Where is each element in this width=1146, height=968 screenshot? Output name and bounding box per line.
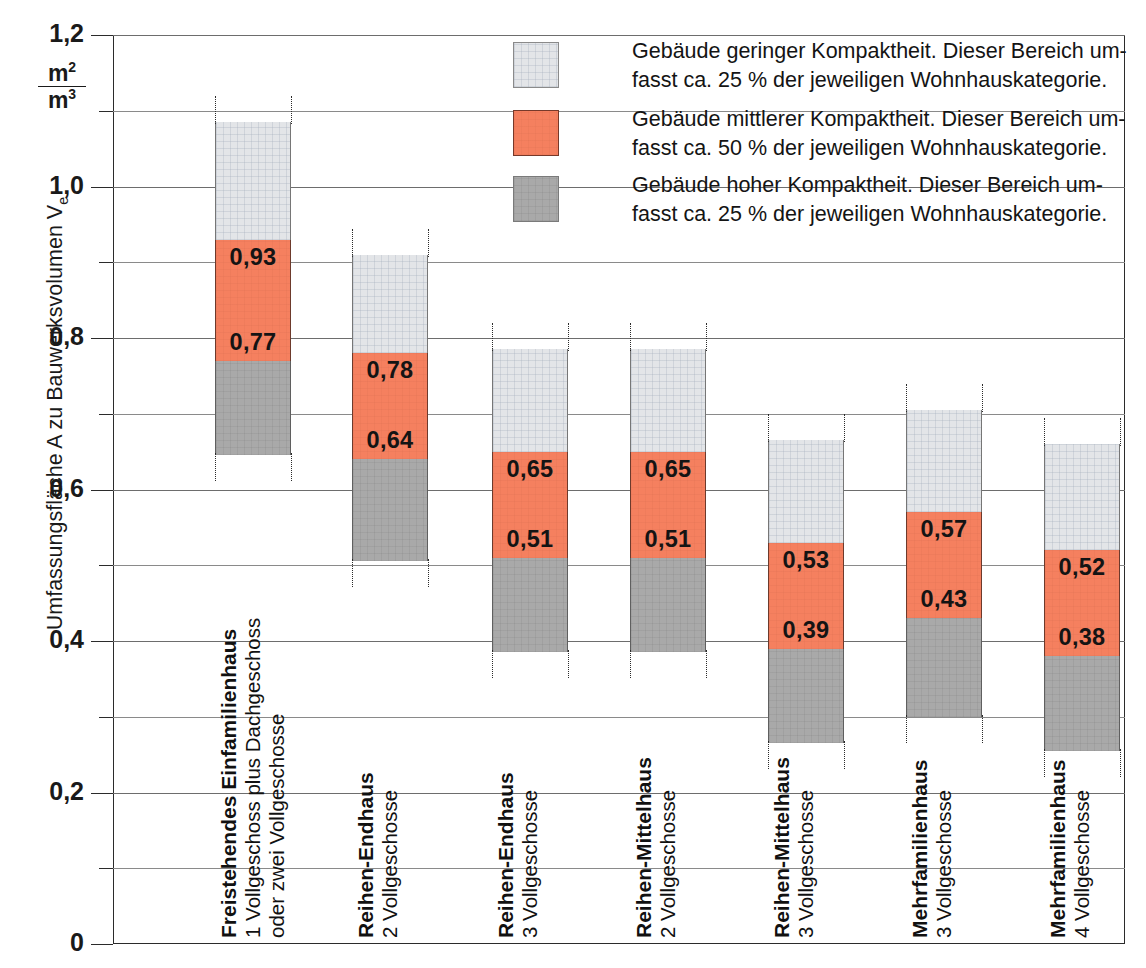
bar-guide-bottom-right	[291, 453, 292, 481]
category-label-1: Freistehendes Einfamilienhaus1 Vollgesch…	[217, 618, 289, 938]
bar-guide-top-left	[768, 414, 769, 442]
value-label-lower: 0,77	[215, 329, 291, 356]
value-label-lower: 0,38	[1044, 624, 1120, 651]
legend-text: Gebäude hoher Kompaktheit. Dieser Bereic…	[632, 171, 1146, 228]
category-label-title: Reihen-Mittelhaus	[632, 757, 656, 938]
category-label-sub2: oder zwei Vollgeschosse	[265, 618, 289, 938]
legend-swatch-mid-icon	[513, 110, 559, 156]
value-label-upper: 0,65	[492, 456, 568, 483]
legend-text-line1: Gebäude mittlerer Kompaktheit. Dieser Be…	[632, 105, 1146, 134]
legend-text: Gebäude geringer Kompaktheit. Dieser Ber…	[632, 37, 1146, 94]
segment-high-compactness	[906, 618, 982, 716]
y-axis-title: Umfassungsfläche A zu Bauwerksvolumen Ve	[43, 179, 70, 649]
category-label-4: Reihen-Mittelhaus2 Vollgeschosse	[632, 757, 680, 938]
segment-low-compactness	[630, 349, 706, 451]
bar-guide-top-right	[291, 96, 292, 124]
category-label-3: Reihen-Endhaus3 Vollgeschosse	[494, 772, 542, 938]
y-axis-tick-label: 0,2	[12, 777, 84, 806]
category-label-title: Mehrfamilienhaus	[908, 759, 932, 938]
bar-3: 0,650,51	[492, 349, 568, 652]
bar-guide-bottom-left	[906, 715, 907, 743]
bar-guide-top-left	[906, 384, 907, 412]
unit-numerator: m2	[38, 60, 86, 87]
value-label-lower: 0,39	[768, 617, 844, 644]
gridline-major	[113, 35, 1125, 36]
bar-guide-top-right	[706, 323, 707, 351]
segment-low-compactness	[906, 410, 982, 512]
bar-guide-bottom-right	[706, 650, 707, 678]
legend-swatch-low-icon	[513, 42, 559, 88]
bar-guide-bottom-left	[768, 741, 769, 769]
bar-guide-top-right	[844, 414, 845, 442]
bar-guide-top-left	[1044, 418, 1045, 446]
bar-guide-bottom-right	[428, 559, 429, 587]
segment-low-compactness	[1044, 444, 1120, 550]
bar-guide-top-left	[630, 323, 631, 351]
bar-6: 0,570,43	[906, 410, 982, 717]
segment-high-compactness	[352, 459, 428, 561]
bar-guide-top-right	[982, 384, 983, 412]
y-tick-minor	[99, 111, 113, 112]
y-tick-minor	[99, 868, 113, 869]
y-tick-major	[91, 187, 113, 188]
y-tick-minor	[99, 565, 113, 566]
segment-low-compactness	[352, 255, 428, 353]
bar-guide-bottom-left	[630, 650, 631, 678]
bar-guide-bottom-right	[1120, 749, 1121, 777]
segment-high-compactness	[1044, 656, 1120, 751]
segment-low-compactness	[215, 122, 291, 239]
y-tick-major	[91, 793, 113, 794]
bar-2: 0,780,64	[352, 255, 428, 562]
y-axis-tick-label: 0	[12, 928, 84, 957]
bar-guide-top-right	[428, 229, 429, 257]
legend-text-line2: fasst ca. 25 % der jeweiligen Wohnhauska…	[632, 200, 1146, 229]
y-tick-minor	[99, 414, 113, 415]
legend-swatch-high-icon	[513, 176, 559, 222]
segment-low-compactness	[768, 440, 844, 542]
value-label-lower: 0,51	[492, 526, 568, 553]
category-label-7: Mehrfamilienhaus4 Vollgeschosse	[1046, 759, 1094, 938]
bar-1: 0,930,77	[215, 122, 291, 455]
y-axis-tick-label: 1,2	[12, 19, 84, 48]
y-tick-major	[91, 35, 113, 36]
bar-7: 0,520,38	[1044, 444, 1120, 751]
value-label-upper: 0,57	[906, 516, 982, 543]
bar-guide-top-left	[215, 96, 216, 124]
bar-guide-bottom-left	[1044, 749, 1045, 777]
value-label-lower: 0,51	[630, 526, 706, 553]
segment-high-compactness	[492, 558, 568, 653]
bar-4: 0,650,51	[630, 349, 706, 652]
bar-5: 0,530,39	[768, 440, 844, 743]
legend-text-line2: fasst ca. 25 % der jeweiligen Wohnhauska…	[632, 66, 1146, 95]
legend-text: Gebäude mittlerer Kompaktheit. Dieser Be…	[632, 105, 1146, 162]
legend-text-line1: Gebäude hoher Kompaktheit. Dieser Bereic…	[632, 171, 1146, 200]
value-label-upper: 0,65	[630, 456, 706, 483]
category-label-2: Reihen-Endhaus2 Vollgeschosse	[354, 772, 402, 938]
category-label-title: Mehrfamilienhaus	[1046, 759, 1070, 938]
value-label-lower: 0,64	[352, 427, 428, 454]
category-label-sub1: 1 Vollgeschoss plus Dachgeschoss	[241, 618, 265, 938]
value-label-upper: 0,78	[352, 357, 428, 384]
category-label-6: Mehrfamilienhaus3 Vollgeschosse	[908, 759, 956, 938]
y-tick-major	[91, 490, 113, 491]
segment-high-compactness	[630, 558, 706, 653]
y-tick-major	[91, 641, 113, 642]
category-label-5: Reihen-Mittelhaus3 Vollgeschosse	[770, 757, 818, 938]
y-tick-minor	[99, 262, 113, 263]
bar-guide-top-left	[492, 323, 493, 351]
bar-guide-bottom-right	[982, 715, 983, 743]
segment-high-compactness	[768, 649, 844, 744]
bar-guide-bottom-left	[215, 453, 216, 481]
category-label-title: Reihen-Endhaus	[354, 772, 378, 938]
category-label-title: Reihen-Mittelhaus	[770, 757, 794, 938]
category-label-title: Reihen-Endhaus	[494, 772, 518, 938]
category-label-sub1: 3 Vollgeschosse	[932, 759, 956, 938]
segment-low-compactness	[492, 349, 568, 451]
bar-guide-bottom-right	[844, 741, 845, 769]
category-label-sub1: 2 Vollgeschosse	[656, 757, 680, 938]
value-label-lower: 0,43	[906, 586, 982, 613]
category-label-sub1: 2 Vollgeschosse	[378, 772, 402, 938]
bar-guide-top-left	[352, 229, 353, 257]
legend-text-line1: Gebäude geringer Kompaktheit. Dieser Ber…	[632, 37, 1146, 66]
segment-high-compactness	[215, 361, 291, 456]
